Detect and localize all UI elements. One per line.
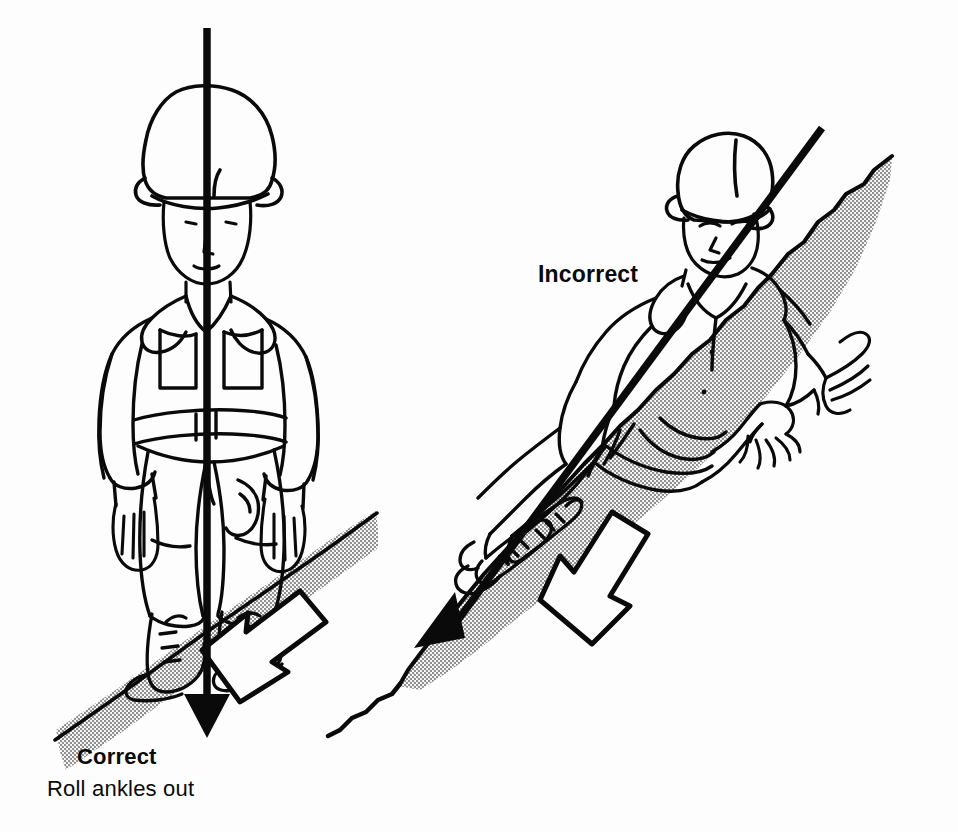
illustration-canvas xyxy=(0,0,958,832)
illustration-page: Correct Roll ankles out Incorrect xyxy=(0,0,958,832)
incorrect-panel-group xyxy=(328,128,892,736)
roll-ankles-caption: Roll ankles out xyxy=(47,778,194,800)
correct-panel-group xyxy=(55,28,378,770)
right-terrain-shading xyxy=(328,156,892,736)
incorrect-label: Incorrect xyxy=(538,263,638,286)
correct-label: Correct xyxy=(77,746,157,768)
